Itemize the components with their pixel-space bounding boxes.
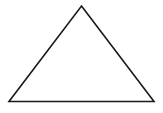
canvas-background [0,0,163,113]
triangle-diagram [0,0,163,113]
drawing-canvas [0,0,163,113]
